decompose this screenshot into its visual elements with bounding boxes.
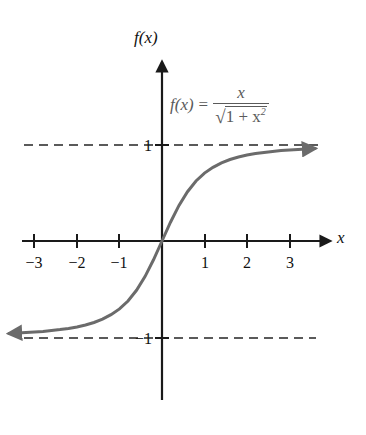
equation-numerator: x bbox=[227, 84, 255, 103]
x-tick-label-pos2: 2 bbox=[243, 254, 251, 271]
radicand-exponent: 2 bbox=[261, 106, 266, 117]
y-axis-title: f(x) bbox=[134, 28, 158, 48]
x-tick-label-neg3: −3 bbox=[25, 254, 42, 271]
x-tick-label-pos3: 3 bbox=[286, 254, 294, 271]
y-tick-label-neg1: −1 bbox=[135, 330, 152, 347]
equation-lhs: f(x) bbox=[170, 95, 194, 115]
equation-equals-sign: = bbox=[199, 95, 209, 115]
function-graph-figure: −3 −2 −1 1 2 3 1 −1 bbox=[0, 0, 366, 435]
y-tick-label-pos1: 1 bbox=[144, 137, 152, 154]
x-tick-label-pos1: 1 bbox=[201, 254, 209, 271]
x-axis-title: x bbox=[337, 228, 345, 248]
equation-denominator: √1 + x2 bbox=[213, 104, 269, 126]
radical-icon: √ bbox=[215, 106, 225, 127]
x-tick-labels: −3 −2 −1 1 2 3 bbox=[25, 254, 294, 271]
x-tick-label-neg1: −1 bbox=[110, 254, 127, 271]
equation-radicand: 1 + x2 bbox=[225, 106, 267, 126]
equation-fraction: x √1 + x2 bbox=[213, 84, 269, 126]
equation-annotation: f(x) = x √1 + x2 bbox=[170, 84, 269, 126]
radicand-text: 1 + x bbox=[226, 107, 261, 126]
x-tick-label-neg2: −2 bbox=[68, 254, 85, 271]
